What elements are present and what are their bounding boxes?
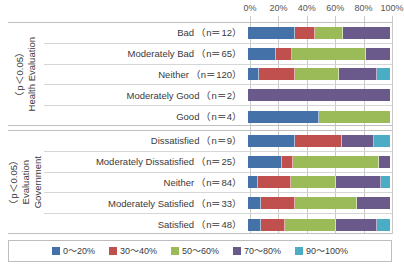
row-category-label: Moderately Bad（n＝65）	[44, 48, 248, 59]
row-category-name: Moderately Satisfied	[108, 198, 194, 209]
row-category-name: Moderately Bad	[128, 48, 195, 59]
bar-segment	[366, 48, 390, 60]
bar-segment	[248, 156, 282, 168]
bar-segment	[248, 197, 261, 209]
chart-row: Moderately Good（n＝2）	[44, 85, 392, 106]
legend-swatch-icon	[295, 247, 303, 255]
stacked-bar	[248, 219, 390, 231]
chart-row: Moderately Satisfied（n＝33）	[44, 193, 392, 214]
bar-segment	[248, 111, 319, 123]
legend-item[interactable]: 70～80%	[233, 246, 281, 257]
bar-segment	[336, 219, 377, 231]
row-sample-size: （n＝33）	[196, 198, 242, 209]
x-axis-tick-0: 0%	[243, 2, 256, 14]
chart-row: Moderately Bad（n＝65）	[44, 44, 392, 65]
legend-label: 30～40%	[120, 246, 157, 257]
row-category-name: Dissatisfied	[151, 135, 200, 146]
legend-swatch-icon	[233, 247, 241, 255]
row-category-label: Good（n＝4）	[44, 111, 248, 122]
group-axis-title-line: Government	[32, 156, 44, 208]
bar-segment	[295, 135, 342, 147]
stacked-bar	[248, 111, 390, 123]
row-sample-size: （n＝65）	[196, 48, 242, 59]
x-axis-tick-labels: 0%20%40%60%80%100%	[250, 2, 392, 16]
chart-rows-government: Dissatisfied（n＝9）Moderately Dissatisfied…	[44, 131, 392, 233]
legend-item[interactable]: 50～60%	[171, 246, 219, 257]
legend-swatch-icon	[109, 247, 117, 255]
row-category-label: Moderately Satisfied（n＝33）	[44, 198, 248, 209]
legend-item[interactable]: 90～100%	[295, 246, 348, 257]
chart-row: Satisfied（n＝48）	[44, 214, 392, 235]
bar-segment	[295, 27, 315, 39]
x-axis-tick-80: 80%	[355, 2, 373, 14]
bar-segment	[377, 219, 390, 231]
bar-segment	[342, 135, 375, 147]
row-bar-cell	[248, 214, 392, 235]
bar-segment	[261, 219, 285, 231]
x-axis-tick-100: 100%	[380, 2, 403, 14]
bar-segment	[343, 27, 390, 39]
x-axis-tick-60: 60%	[326, 2, 344, 14]
row-sample-size: （n＝120）	[191, 69, 242, 80]
bar-segment	[248, 27, 295, 39]
bar-segment	[248, 135, 295, 147]
bar-segment	[315, 27, 343, 39]
chart-legend: 0～20%30～40%50～60%70～80%90～100%	[8, 240, 392, 262]
group-axis-title-line: （p＜0.05）	[8, 155, 20, 209]
x-axis-tick-40: 40%	[298, 2, 316, 14]
bar-segment	[377, 68, 390, 80]
chart-rows-health: Bad（n＝12）Moderately Bad（n＝65）Neither（n＝1…	[44, 23, 392, 125]
bar-segment	[259, 68, 295, 80]
row-bar-cell	[248, 85, 392, 105]
bar-segment	[295, 197, 357, 209]
bar-segment	[261, 197, 295, 209]
bar-segment	[282, 156, 293, 168]
group-axis-title-line: （p＜0.05）	[14, 47, 26, 101]
row-bar-cell	[248, 152, 392, 172]
chart-row: Neither（n＝84）	[44, 173, 392, 194]
row-bar-cell	[248, 193, 392, 213]
bar-segment	[293, 156, 378, 168]
bar-segment	[258, 176, 291, 188]
row-sample-size: （n＝2）	[201, 90, 242, 101]
row-sample-size: （n＝25）	[196, 156, 242, 167]
row-sample-size: （n＝12）	[196, 27, 242, 38]
row-category-label: Moderately Good（n＝2）	[44, 90, 248, 101]
bar-segment	[276, 48, 292, 60]
legend-label: 0～20%	[63, 246, 95, 257]
row-bar-cell	[248, 65, 392, 85]
chart-row: Good（n＝4）	[44, 106, 392, 127]
row-category-label: Neither（n＝84）	[44, 177, 248, 188]
row-category-name: Neither	[158, 69, 189, 80]
legend-swatch-icon	[52, 247, 60, 255]
row-category-label: Neither（n＝120）	[44, 69, 248, 80]
bar-segment	[292, 48, 366, 60]
row-category-label: Bad（n＝12）	[44, 27, 248, 38]
legend-label: 70～80%	[244, 246, 281, 257]
bar-segment	[248, 176, 258, 188]
chart-row: Bad（n＝12）	[44, 23, 392, 44]
bar-segment	[374, 135, 390, 147]
legend-label: 90～100%	[306, 246, 348, 257]
stacked-bar	[248, 89, 390, 101]
row-sample-size: （n＝9）	[201, 135, 242, 146]
bar-segment	[339, 68, 377, 80]
row-category-name: Neither	[164, 177, 195, 188]
row-sample-size: （n＝4）	[201, 111, 242, 122]
stacked-bar	[248, 176, 390, 188]
row-bar-cell	[248, 106, 392, 127]
stacked-bar	[248, 68, 390, 80]
bar-segment	[248, 89, 390, 101]
chart-group-health: Health Evaluation（p＜0.05） Bad（n＝12）Moder…	[8, 22, 392, 126]
row-category-name: Good	[176, 111, 199, 122]
bar-segment	[285, 219, 336, 231]
chart-row: Dissatisfied（n＝9）	[44, 131, 392, 152]
bar-segment	[336, 176, 381, 188]
legend-item[interactable]: 0～20%	[52, 246, 95, 257]
stacked-bar	[248, 156, 390, 168]
row-bar-cell	[248, 131, 392, 151]
legend-swatch-icon	[171, 247, 179, 255]
row-sample-size: （n＝84）	[196, 177, 242, 188]
legend-item[interactable]: 30～40%	[109, 246, 157, 257]
